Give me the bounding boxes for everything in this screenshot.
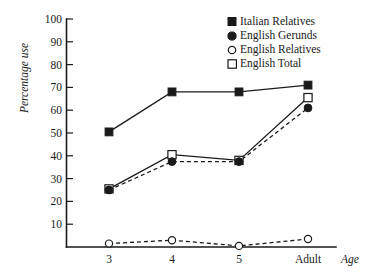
filled-circle-icon [228,32,236,40]
data-point-marker [235,242,242,249]
y-tick-label: 100 [45,13,63,25]
series-line-english-total [109,98,308,189]
legend-label: English Gerunds [240,29,318,42]
legend-label: English Total [240,57,301,70]
open-circle-icon [228,46,235,53]
legend-label: English Relatives [240,43,321,56]
y-tick-label: 20 [51,195,63,207]
data-point-marker [168,88,176,96]
chart-container: 100 90 80 70 60 50 40 30 20 10 Percentag… [0,0,366,276]
x-tick-label: Adult [295,253,322,265]
y-tick-label: 60 [51,104,63,116]
y-axis-ticks [67,19,74,224]
percentage-use-by-age-line-chart: 100 90 80 70 60 50 40 30 20 10 Percentag… [0,0,366,276]
data-point-marker [304,235,311,242]
series-markers-english-gerunds [105,104,312,194]
y-tick-label: 10 [51,218,63,230]
data-point-marker [105,128,113,136]
x-axis-tick-labels: 3 4 5 Adult [106,253,322,265]
data-point-marker [304,81,312,89]
y-tick-label: 50 [51,127,63,139]
y-tick-label: 80 [51,59,63,71]
data-point-marker [168,237,175,244]
data-point-marker [105,186,113,194]
series-line-english-gerunds [109,108,308,190]
x-tick-label: 4 [169,253,175,265]
legend-item-english-total: English Total [228,57,301,70]
y-tick-label: 70 [51,81,63,93]
x-axis-title: Age [340,253,359,266]
series-line-english-relatives [109,239,308,246]
legend-item-italian-relatives: Italian Relatives [228,15,316,27]
legend-item-english-gerunds: English Gerunds [228,29,318,42]
data-point-marker [304,94,312,102]
y-tick-label: 90 [51,36,63,48]
y-tick-label: 30 [51,173,63,185]
y-axis-tick-labels: 100 90 80 70 60 50 40 30 20 10 [45,13,63,230]
data-point-marker [304,104,312,112]
legend-item-english-relatives: English Relatives [228,43,321,56]
data-point-marker [168,158,176,166]
y-axis-title: Percentage use [18,43,31,114]
series-markers-italian-relatives [105,81,312,136]
open-square-icon [228,60,236,68]
data-point-marker [105,240,112,247]
y-tick-label: 40 [51,150,63,162]
x-tick-label: 3 [106,253,112,265]
data-point-marker [235,158,243,166]
legend-label: Italian Relatives [240,15,316,27]
series-lines [109,85,308,246]
filled-square-icon [228,18,236,26]
x-tick-label: 5 [236,253,242,265]
data-point-marker [235,88,243,96]
chart-legend: Italian Relatives English Gerunds Englis… [228,15,321,70]
